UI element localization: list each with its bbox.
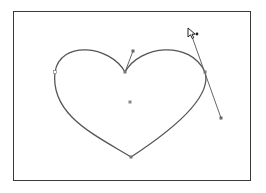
center-point [129,101,132,104]
direction-line-top [125,51,133,72]
anchor-left[interactable] [54,71,57,74]
anchor-bottom-tip[interactable] [130,156,133,159]
heart-drawing[interactable] [0,0,266,193]
arrow-pointer-icon [188,28,198,39]
plus-indicator-icon [196,33,199,36]
anchor-right[interactable] [204,71,207,74]
direction-point-lower[interactable] [220,117,223,120]
direction-point-top[interactable] [132,50,135,53]
anchor-top-cusp[interactable] [124,71,127,74]
